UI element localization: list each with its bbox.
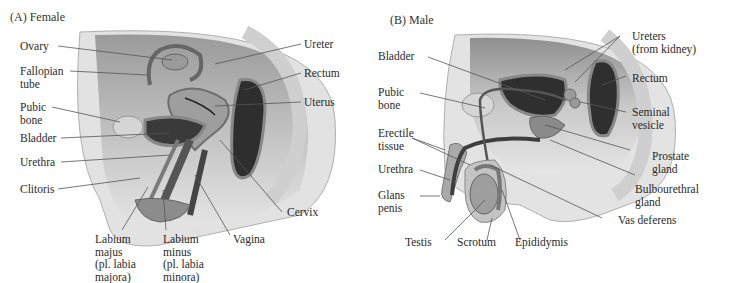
- label-fallopian-tube: Fallopian tube: [20, 65, 63, 90]
- male-panel: (B) Male Bladder Pubic bone Erectile tis…: [370, 0, 741, 283]
- label-rectum: Rectum: [632, 72, 668, 85]
- label-scrotum: Scrotum: [457, 236, 496, 249]
- label-labium-majus: Labium majus (pl. labia majora): [95, 233, 136, 283]
- label-urethra: Urethra: [20, 156, 55, 169]
- label-bladder: Bladder: [378, 50, 414, 63]
- female-panel-title: (A) Female: [10, 10, 65, 25]
- label-vagina: Vagina: [233, 233, 265, 246]
- label-seminal-vesicle: Seminal vesicle: [632, 106, 670, 131]
- label-cervix: Cervix: [287, 206, 318, 219]
- label-labium-minus: Labium minus (pl. labia minora): [163, 233, 204, 283]
- label-pubic-bone: Pubic bone: [378, 86, 404, 111]
- label-bladder: Bladder: [20, 132, 56, 145]
- label-bulbourethral-gland: Bulbourethral gland: [635, 183, 699, 208]
- label-prostate-gland: Prostate gland: [652, 150, 689, 175]
- label-pubic-bone: Pubic bone: [20, 101, 46, 126]
- label-vas-deferens: Vas deferens: [618, 214, 676, 227]
- label-urethra: Urethra: [378, 163, 413, 176]
- male-panel-title: (B) Male: [390, 13, 434, 28]
- label-uterus: Uterus: [304, 96, 335, 109]
- label-glans-penis: Glans penis: [378, 189, 405, 214]
- label-epididymis: Epididymis: [515, 236, 568, 249]
- female-panel: (A) Female Ovary Fallopian tube Pubic bo…: [0, 0, 370, 283]
- label-rectum: Rectum: [304, 67, 340, 80]
- label-ureter: Ureter: [304, 38, 333, 51]
- label-ovary: Ovary: [20, 40, 49, 53]
- label-ureters: Ureters (from kidney): [632, 30, 696, 55]
- label-erectile-tissue: Erectile tissue: [378, 127, 414, 152]
- label-testis: Testis: [405, 236, 432, 249]
- label-clitoris: Clitoris: [20, 183, 55, 196]
